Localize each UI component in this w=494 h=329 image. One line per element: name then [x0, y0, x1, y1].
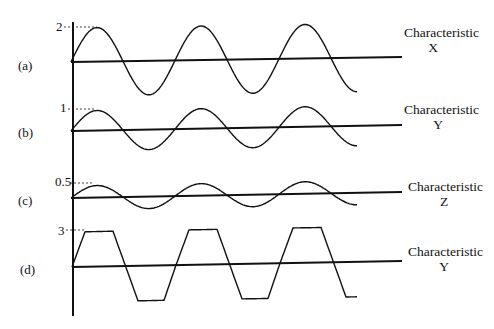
characteristic-label: Characteristic: [404, 25, 479, 40]
characteristic-label: Characteristic: [408, 179, 483, 194]
panel-a: (a) 2 Characteristic X: [18, 19, 479, 95]
waveform-diagram: (a) 2 Characteristic X (b) 1 Characteris…: [0, 0, 494, 329]
panel-label: (a): [18, 58, 32, 73]
characteristic-label: Characteristic: [408, 244, 483, 259]
characteristic-letter: Y: [433, 117, 443, 132]
characteristic-letter: Y: [439, 259, 449, 274]
characteristic-letter: X: [428, 40, 438, 55]
panel-label: (b): [18, 125, 33, 140]
characteristic-label: Characteristic: [404, 102, 479, 117]
panel-b: (b) 1 Characteristic Y: [18, 100, 479, 150]
characteristic-letter: Z: [440, 194, 448, 209]
panel-c: (c) 0.5 Characteristic Z: [18, 174, 483, 209]
peak-tick-label: 2: [56, 19, 63, 34]
panel-d: (d) 3 Characteristic Y: [20, 223, 483, 301]
panel-label: (c): [18, 193, 32, 208]
peak-tick-label: 1: [60, 100, 67, 115]
peak-tick-label: 3: [58, 223, 65, 238]
panel-label: (d): [20, 262, 35, 277]
peak-tick-label: 0.5: [55, 174, 71, 189]
baseline: [72, 261, 402, 267]
